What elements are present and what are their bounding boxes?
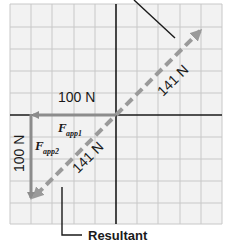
fapp2-label-sub: app2 [43, 147, 59, 156]
fapp1-magnitude-label: 100 N [58, 89, 95, 105]
fapp1-label-sub: app1 [66, 129, 82, 138]
vector-diagram: 100 N 100 N 141 N 141 N F app1 F app2 Re… [0, 0, 230, 248]
resultant-callout-label: Resultant [88, 228, 148, 243]
fapp2-magnitude-label: 100 N [11, 135, 27, 172]
